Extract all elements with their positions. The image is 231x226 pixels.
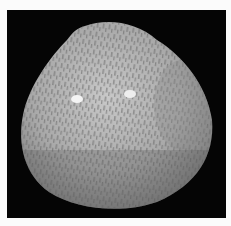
- photo-frame: [7, 10, 226, 218]
- highlight: [71, 95, 83, 103]
- shell: [7, 10, 226, 218]
- shell-image: [7, 10, 226, 218]
- highlight: [124, 90, 136, 98]
